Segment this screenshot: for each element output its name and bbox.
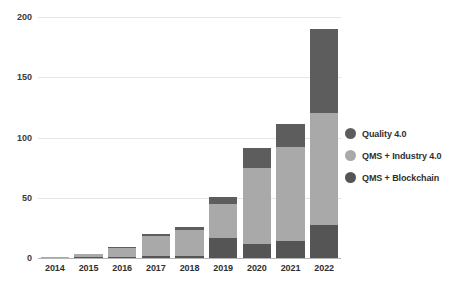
bar-2022[interactable] bbox=[310, 29, 339, 258]
bar-segment-2019-qms-industry-4-0 bbox=[209, 204, 238, 238]
y-tick-label-200: 200 bbox=[4, 12, 32, 22]
gridline-150 bbox=[38, 77, 341, 78]
x-axis-line bbox=[38, 258, 341, 259]
bar-segment-2016-qms-industry-4-0 bbox=[108, 248, 137, 256]
legend-swatch-qms-industry-40 bbox=[345, 150, 356, 161]
bar-2018[interactable] bbox=[175, 227, 204, 258]
bar-segment-2016-qms-blockchain bbox=[108, 257, 137, 258]
y-tick-label-150: 150 bbox=[4, 72, 32, 82]
x-tick-label-2021: 2021 bbox=[272, 263, 309, 273]
y-tick-label-100: 100 bbox=[4, 133, 32, 143]
bar-segment-2015-qms-blockchain bbox=[74, 257, 103, 258]
y-tick-label-0: 0 bbox=[4, 253, 32, 263]
bar-segment-2022-qms-industry-4-0 bbox=[310, 113, 339, 225]
bar-segment-2021-qms-blockchain bbox=[276, 241, 305, 258]
bar-2021[interactable] bbox=[276, 124, 305, 258]
stacked-bar-chart: 200 150 100 50 0 20142015201620172018201… bbox=[0, 0, 468, 296]
bar-2017[interactable] bbox=[142, 234, 171, 258]
legend-item-qms-industry-40[interactable]: QMS + Industry 4.0 bbox=[345, 149, 465, 162]
bar-segment-2017-qms-industry-4-0 bbox=[142, 236, 171, 255]
legend: Quality 4.0 QMS + Industry 4.0 QMS + Blo… bbox=[345, 127, 465, 193]
bar-segment-2021-qms-industry-4-0 bbox=[276, 147, 305, 241]
bar-2014[interactable] bbox=[41, 257, 70, 258]
legend-label-qms-blockchain: QMS + Blockchain bbox=[362, 173, 439, 183]
bar-segment-2018-qms-industry-4-0 bbox=[175, 230, 204, 255]
legend-item-qms-blockchain[interactable]: QMS + Blockchain bbox=[345, 171, 465, 184]
x-tick-label-2014: 2014 bbox=[37, 263, 74, 273]
legend-swatch-quality-40 bbox=[345, 128, 356, 139]
x-tick-label-2022: 2022 bbox=[306, 263, 343, 273]
bar-segment-2017-qms-blockchain bbox=[142, 256, 171, 258]
x-tick-label-2018: 2018 bbox=[171, 263, 208, 273]
bar-segment-2014-qms-industry-4-0 bbox=[41, 257, 70, 258]
gridline-200 bbox=[38, 17, 341, 18]
bar-segment-2020-quality-4-0 bbox=[243, 148, 272, 167]
bar-2020[interactable] bbox=[243, 148, 272, 258]
bar-segment-2020-qms-industry-4-0 bbox=[243, 168, 272, 244]
x-tick-label-2015: 2015 bbox=[70, 263, 107, 273]
legend-swatch-qms-blockchain bbox=[345, 172, 356, 183]
bar-segment-2022-quality-4-0 bbox=[310, 29, 339, 113]
bar-segment-2019-qms-blockchain bbox=[209, 238, 238, 258]
bar-segment-2022-qms-blockchain bbox=[310, 225, 339, 258]
bar-segment-2018-qms-blockchain bbox=[175, 256, 204, 258]
y-tick-label-50: 50 bbox=[4, 193, 32, 203]
x-tick-label-2017: 2017 bbox=[138, 263, 175, 273]
bar-segment-2019-quality-4-0 bbox=[209, 197, 238, 204]
bar-2019[interactable] bbox=[209, 197, 238, 258]
x-tick-label-2019: 2019 bbox=[205, 263, 242, 273]
x-tick-label-2020: 2020 bbox=[239, 263, 276, 273]
bar-2016[interactable] bbox=[108, 247, 137, 258]
bar-segment-2021-quality-4-0 bbox=[276, 124, 305, 147]
legend-label-qms-industry-40: QMS + Industry 4.0 bbox=[362, 151, 441, 161]
x-tick-label-2016: 2016 bbox=[104, 263, 141, 273]
plot-area bbox=[38, 17, 341, 258]
legend-label-quality-40: Quality 4.0 bbox=[362, 129, 406, 139]
bar-segment-2020-qms-blockchain bbox=[243, 244, 272, 258]
bar-2015[interactable] bbox=[74, 254, 103, 258]
legend-item-quality-40[interactable]: Quality 4.0 bbox=[345, 127, 465, 140]
